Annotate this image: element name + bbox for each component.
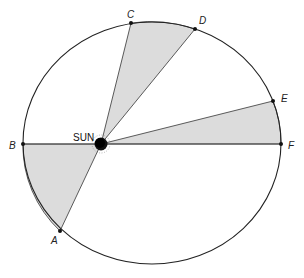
- point-F-marker: [279, 142, 283, 146]
- point-C-label: C: [127, 9, 135, 20]
- kepler-orbit-diagram: SUN A B C D E F: [0, 0, 304, 278]
- point-B-marker: [21, 142, 25, 146]
- point-A-marker: [58, 229, 62, 233]
- point-E-marker: [271, 99, 275, 103]
- point-B-label: B: [9, 140, 16, 151]
- point-A-label: A: [50, 235, 58, 246]
- point-C-marker: [129, 21, 133, 25]
- sun-label: SUN: [73, 132, 94, 143]
- sector-A-B: [23, 144, 101, 231]
- point-F-label: F: [288, 140, 295, 151]
- point-D-label: D: [199, 15, 206, 26]
- point-D-marker: [193, 27, 197, 31]
- point-E-label: E: [281, 93, 288, 104]
